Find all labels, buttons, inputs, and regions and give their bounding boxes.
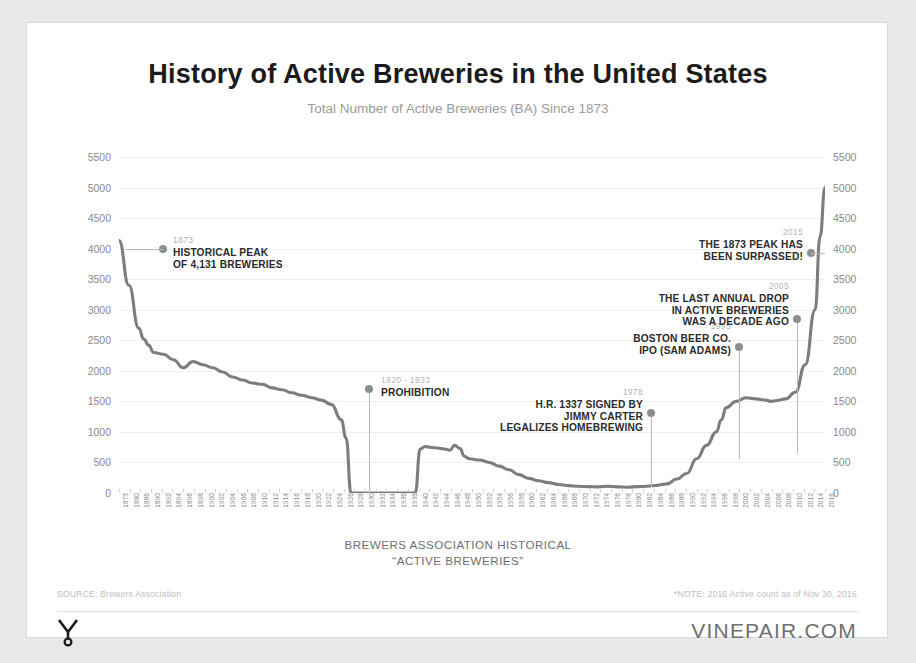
annotation-text-line: LEGALIZES HOMEBREWING	[500, 422, 643, 434]
x-axis-tick-label: 1990	[689, 493, 696, 508]
y-axis-tick-label-left: 3500	[65, 274, 111, 284]
y-axis-tick-label-left: 1500	[65, 396, 111, 406]
x-axis-tick	[750, 489, 751, 492]
annotation-leader-line	[651, 417, 652, 487]
x-axis-tick	[686, 489, 687, 492]
y-axis-tick-label-left: 2500	[65, 335, 111, 345]
x-axis-tick	[772, 489, 773, 492]
x-axis-tick	[322, 489, 323, 492]
annotation-text-line: PROHIBITION	[381, 387, 449, 399]
y-axis-tick-label-left: 5000	[65, 183, 111, 193]
site-url: VINEPAIR.COM	[691, 619, 857, 643]
x-axis-tick	[643, 489, 644, 492]
x-axis-tick	[290, 489, 291, 492]
y-axis-tick-label-right: 1000	[833, 427, 879, 437]
chart-plot-area: 0500100015002000250030003500400045005000…	[119, 157, 825, 493]
x-axis-tick	[226, 489, 227, 492]
x-axis-tick-label: 1950	[475, 493, 482, 508]
x-axis-tick-label: 1908	[250, 493, 257, 508]
x-axis-tick	[622, 489, 623, 492]
y-axis-tick-label-left: 4000	[65, 244, 111, 254]
x-axis-tick-label: 1970	[582, 493, 589, 508]
x-axis-tick-label: 1946	[454, 493, 461, 508]
x-axis-tick	[451, 489, 452, 492]
x-axis-tick	[440, 489, 441, 492]
x-axis-tick-label: 1900	[208, 493, 215, 508]
x-axis-tick	[130, 489, 131, 492]
x-axis-tick-label: 1952	[486, 493, 493, 508]
x-axis-tick-label: 1904	[229, 493, 236, 508]
x-axis-tick-label: 1972	[593, 493, 600, 508]
y-axis-tick-label-left: 500	[65, 457, 111, 467]
x-axis-tick-label: 1922	[325, 493, 332, 508]
x-axis-tick	[215, 489, 216, 492]
x-axis-tick-label: 2002	[753, 493, 760, 508]
annotation-leader-line	[797, 323, 798, 453]
y-axis-tick-label-right: 5500	[833, 152, 879, 162]
x-axis-tick-label: 2006	[775, 493, 782, 508]
x-axis-tick-label: 1960	[528, 493, 535, 508]
annotation-text-line: BOSTON BEER CO.	[633, 333, 731, 345]
x-axis-tick-label: 1938	[411, 493, 418, 508]
x-axis-tick	[600, 489, 601, 492]
x-axis-tick-label: 1894	[175, 493, 182, 508]
x-axis-tick-label: 1944	[443, 493, 450, 508]
x-axis-tick-label: 1892	[165, 493, 172, 508]
x-axis-tick-label: 1976	[614, 493, 621, 508]
x-axis-tick	[665, 489, 666, 492]
x-axis-tick	[237, 489, 238, 492]
x-axis-tick-label: 1928	[357, 493, 364, 508]
x-axis-tick-label: 1986	[668, 493, 675, 508]
x-axis-tick	[804, 489, 805, 492]
annotation-leader-line	[811, 253, 825, 254]
x-axis-tick-label: 1924	[336, 493, 343, 508]
y-axis-tick-label-right: 4000	[833, 244, 879, 254]
annotation-year: 2005	[659, 281, 789, 292]
annotation-marker	[365, 385, 373, 393]
annotation-year: 1920 - 1933	[381, 375, 449, 386]
x-axis-tick	[782, 489, 783, 492]
chart-caption-line1: BREWERS ASSOCIATION HISTORICAL	[27, 537, 889, 553]
x-axis-tick	[333, 489, 334, 492]
x-axis-tick-label: 1942	[432, 493, 439, 508]
x-axis-tick-label: 1980	[635, 493, 642, 508]
x-axis-tick	[354, 489, 355, 492]
note-text: *NOTE: 2016 Active count as of Nov 30, 2…	[674, 589, 857, 599]
x-axis-tick	[525, 489, 526, 492]
annotation-marker	[793, 315, 801, 323]
x-axis-tick-label: 1998	[732, 493, 739, 508]
x-axis-tick-label: 1880	[133, 493, 140, 508]
x-axis-tick	[312, 489, 313, 492]
y-axis-tick-label-right: 3500	[833, 274, 879, 284]
x-axis-tick	[376, 489, 377, 492]
x-axis-tick	[172, 489, 173, 492]
x-axis-tick	[140, 489, 141, 492]
page-title: History of Active Breweries in the Unite…	[27, 59, 889, 90]
x-axis-tick	[247, 489, 248, 492]
x-axis-tick	[151, 489, 152, 492]
x-axis-tick-label: 2016	[828, 493, 835, 508]
x-axis-tick	[536, 489, 537, 492]
y-axis-tick-label-left: 5500	[65, 152, 111, 162]
x-axis-tick	[761, 489, 762, 492]
annotation-year: 1978	[500, 387, 643, 398]
x-axis-tick-label: 1914	[282, 493, 289, 508]
annotation-text-line: HISTORICAL PEAK	[173, 247, 283, 259]
x-axis-tick	[301, 489, 302, 492]
x-axis-tick-label: 2014	[817, 493, 824, 508]
vinepair-logo[interactable]	[57, 615, 81, 649]
x-axis-tick-label: 1956	[507, 493, 514, 508]
x-axis-tick	[739, 489, 740, 492]
x-axis-tick-label: 1920	[315, 493, 322, 508]
chart-caption: BREWERS ASSOCIATION HISTORICAL “ACTIVE B…	[27, 537, 889, 568]
annotation-marker	[735, 343, 743, 351]
y-axis-tick-label-left: 2000	[65, 366, 111, 376]
y-axis-tick-label-right: 2500	[833, 335, 879, 345]
annotation-text-line: BEEN SURPASSED!	[699, 251, 803, 263]
x-axis-tick-label: 1964	[550, 493, 557, 508]
x-axis-tick-label: 1968	[571, 493, 578, 508]
x-axis-tick	[365, 489, 366, 492]
x-axis-tick-label: 1966	[561, 493, 568, 508]
x-axis-tick-label: 1896	[186, 493, 193, 508]
x-axis-tick	[258, 489, 259, 492]
